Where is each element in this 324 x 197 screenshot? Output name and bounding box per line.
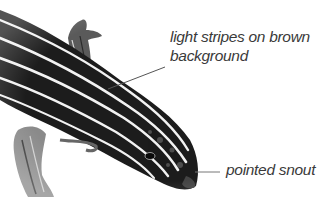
- annotation-stripes-line2: background: [170, 46, 310, 65]
- annotation-snout-line1: pointed snout: [226, 160, 315, 179]
- annotation-stripes: light stripes on brown background: [170, 27, 310, 65]
- annotation-snout: pointed snout: [226, 160, 315, 179]
- annotation-stripes-line1: light stripes on brown: [170, 27, 310, 46]
